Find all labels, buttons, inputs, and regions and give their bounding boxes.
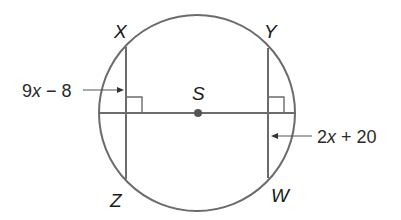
- measure-left-label: 9x − 8: [22, 81, 72, 101]
- label-z: Z: [109, 190, 123, 211]
- label-y: Y: [264, 21, 278, 42]
- measure-right-label: 2x + 20: [317, 127, 377, 147]
- label-s: S: [192, 83, 205, 104]
- right-angle-mark-right: [268, 97, 284, 113]
- circle-chord-diagram: X Y Z W S 9x − 8 2x + 20: [0, 0, 401, 220]
- arrow-right-icon: [117, 87, 124, 93]
- label-x: X: [113, 21, 128, 42]
- arrow-left-icon: [271, 133, 278, 139]
- right-angle-mark-left: [126, 97, 142, 113]
- label-w: W: [271, 185, 291, 206]
- center-point-s: [194, 109, 202, 117]
